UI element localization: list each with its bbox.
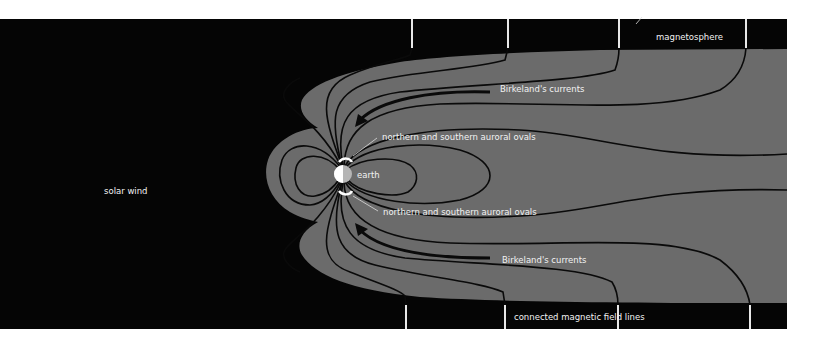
label-magnetosphere: magnetosphere: [656, 32, 723, 42]
label-birkeland-bottom: Birkeland's currents: [502, 255, 587, 265]
label-earth: earth: [357, 170, 380, 180]
magnetosphere-diagram: solar wind magnetosphere Birkeland's cur…: [0, 0, 827, 347]
label-solar-wind: solar wind: [104, 186, 148, 196]
label-connected-lines: connected magnetic field lines: [514, 312, 645, 322]
label-auroral-bottom: northern and southern auroral ovals: [383, 207, 537, 217]
label-birkeland-top: Birkeland's currents: [500, 84, 585, 94]
label-auroral-top: northern and southern auroral ovals: [382, 132, 536, 142]
